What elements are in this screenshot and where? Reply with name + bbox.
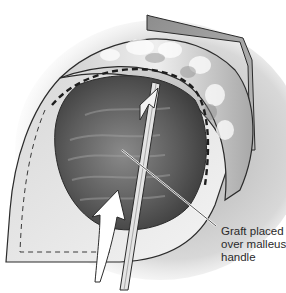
tympanic-cavity bbox=[55, 76, 207, 230]
annotation-line-1: Graft placed bbox=[221, 225, 286, 238]
annotation-label: Graft placed over malleus handle bbox=[221, 225, 286, 264]
annotation-line-3: handle bbox=[221, 251, 286, 264]
illustration-canvas: Graft placed over malleus handle bbox=[0, 0, 286, 293]
annotation-line-2: over malleus bbox=[221, 238, 286, 251]
